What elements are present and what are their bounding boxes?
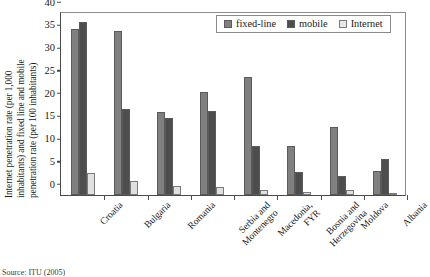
bar	[173, 186, 181, 195]
y-axis-tick-20: 20	[45, 88, 62, 99]
y-axis-title-line-3: penetration rate (per 100 inhabitants)	[28, 63, 38, 198]
bar	[208, 111, 216, 195]
y-axis-tick-30: 30	[45, 43, 62, 54]
bar	[130, 181, 138, 195]
x-axis-label-line: Albania	[401, 200, 429, 228]
legend-item-mobile[interactable]: mobile	[287, 19, 328, 29]
y-axis-tick-0: 0	[50, 179, 61, 190]
bar-group	[287, 13, 311, 195]
bar-group	[373, 13, 397, 195]
y-axis-title-line-2: inhabitants) and fixed line and mobile	[16, 59, 26, 198]
y-axis-tick-label: 25	[45, 66, 58, 77]
legend-swatch-fixed-line	[224, 20, 232, 28]
y-axis-tick-label: 15	[45, 111, 58, 122]
x-axis-label-romania: Romania	[186, 200, 217, 231]
legend-swatch-internet	[339, 20, 347, 28]
bar	[165, 118, 173, 195]
source-note: Source: ITU (2005)	[2, 268, 65, 277]
legend-item-internet[interactable]: Internet	[339, 19, 383, 29]
bar	[287, 146, 295, 195]
bar	[200, 92, 208, 195]
y-axis-tick-label: 30	[45, 43, 58, 54]
bar	[122, 109, 130, 195]
x-axis-label-line: Bulgaria	[142, 200, 172, 230]
bar	[114, 31, 122, 195]
y-axis-tick-label: 20	[45, 88, 58, 99]
y-axis-tick-25: 25	[45, 66, 62, 77]
x-axis-label-albania: Albania	[401, 200, 429, 228]
x-axis-label-line: Croatia	[98, 200, 125, 227]
bar	[79, 22, 87, 195]
y-axis-tick-label: 5	[50, 157, 57, 168]
x-axis-label-line: Romania	[186, 200, 217, 231]
chart-plot-area: 0510152025303540	[60, 12, 406, 196]
bar	[260, 190, 268, 195]
y-axis-title-line-1: Internet penetration rate (per 1,000	[4, 71, 14, 198]
legend-swatch-mobile	[287, 20, 295, 28]
bar-group	[330, 13, 354, 195]
x-axis-label-bulgaria: Bulgaria	[142, 200, 172, 230]
bar-series-layer	[61, 13, 405, 195]
bar	[252, 146, 260, 195]
x-axis-label-croatia: Croatia	[98, 200, 125, 227]
chart-legend: fixed-linemobileInternet	[216, 15, 391, 33]
legend-item-fixed-line[interactable]: fixed-line	[224, 19, 276, 29]
bar	[87, 173, 95, 195]
bar	[389, 193, 397, 195]
y-axis-tick-mark	[57, 2, 61, 3]
y-axis-tick-label: 35	[45, 20, 58, 31]
legend-label: mobile	[299, 19, 328, 29]
bar	[157, 112, 165, 195]
bar	[381, 159, 389, 195]
bar	[330, 127, 338, 195]
y-axis-tick-label: 40	[45, 0, 58, 8]
bar-group	[114, 13, 138, 195]
y-axis-tick-label: 10	[45, 134, 58, 145]
bar	[373, 171, 381, 195]
y-axis-tick-label: 0	[50, 179, 57, 190]
y-axis-title: Internet penetration rate (per 1,000 inh…	[0, 0, 46, 200]
x-axis-category-labels: CroatiaBulgariaRomaniaSerbia andMonteneg…	[0, 200, 420, 276]
y-axis-tick-40: 40	[45, 0, 62, 8]
bar-group	[71, 13, 95, 195]
x-axis-label-macedonia-fyr: Macedonia,FYR	[276, 200, 322, 246]
y-axis-tick-5: 5	[50, 157, 61, 168]
bar	[338, 176, 346, 195]
y-axis-tick-35: 35	[45, 20, 62, 31]
legend-label: fixed-line	[236, 19, 276, 29]
bar	[295, 172, 303, 195]
bar-group	[157, 13, 181, 195]
bar	[71, 29, 79, 195]
legend-label: Internet	[351, 19, 383, 29]
bar	[216, 187, 224, 195]
bar-group	[244, 13, 268, 195]
y-axis-tick-15: 15	[45, 111, 62, 122]
bar-group	[200, 13, 224, 195]
y-axis-tick-10: 10	[45, 134, 62, 145]
bar	[346, 190, 354, 195]
x-axis-label-serbia-and-montenegro: Serbia andMontenegro	[233, 200, 280, 247]
bar	[303, 192, 311, 195]
bar	[244, 77, 252, 195]
